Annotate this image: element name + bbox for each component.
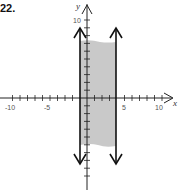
x-tick-label-5: 5 [122, 104, 126, 111]
graph: -10 -5 5 10 10 x y [0, 0, 178, 194]
x-axis-label: x [172, 98, 177, 108]
y-axis-label: y [75, 1, 80, 11]
x-tick-label-neg10: -10 [5, 104, 15, 111]
y-tick-label-10: 10 [73, 17, 81, 24]
shaded-region [80, 40, 116, 147]
x-tick-label-neg5: -5 [44, 104, 50, 111]
x-tick-label-10: 10 [155, 104, 163, 111]
